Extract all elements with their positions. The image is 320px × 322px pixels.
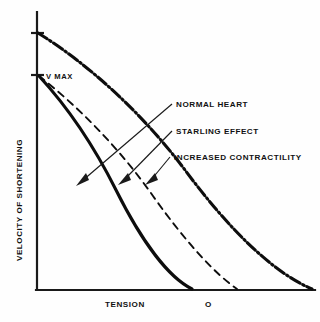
x-axis-mark-o: O	[205, 300, 212, 309]
series-label-starling-effect: STARLING EFFECT	[176, 127, 259, 136]
figure-container: NORMAL HEART STARLING EFFECT INCREASED C…	[0, 0, 320, 322]
vmax-label: V MAX	[46, 72, 73, 81]
force-velocity-chart: NORMAL HEART STARLING EFFECT INCREASED C…	[0, 0, 320, 322]
y-axis-label: VELOCITY OF SHORTENING	[15, 139, 24, 261]
series-label-normal-heart: NORMAL HEART	[176, 100, 248, 109]
series-label-increased-contractility: INCREASED CONTRACTILITY	[174, 153, 302, 162]
x-axis-label: TENSION	[105, 300, 145, 309]
